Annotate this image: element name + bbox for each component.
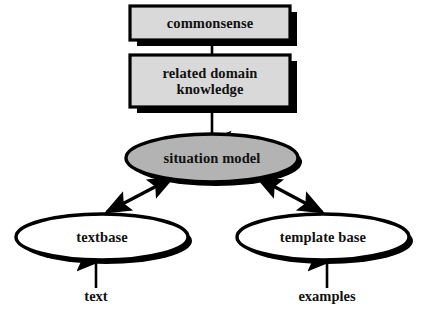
- commonsense-box: [130, 6, 290, 40]
- related-domain-knowledge-box: [130, 55, 290, 107]
- edge-situation-model-to-textbase: [107, 178, 172, 212]
- situation-model-ellipse: [126, 134, 298, 182]
- diagram-canvas: commonsense related domain knowledge sit…: [0, 0, 424, 317]
- examples-input-label: examples: [267, 288, 387, 305]
- text-input-label: text: [46, 288, 146, 305]
- template-base-ellipse: [237, 214, 409, 260]
- textbase-ellipse: [16, 214, 188, 260]
- diagram-graphics: [0, 0, 424, 317]
- edge-situation-model-to-template-base: [258, 178, 322, 212]
